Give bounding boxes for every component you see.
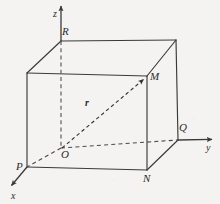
edge-vert-back-right — [176, 40, 178, 140]
box-dashed-edges — [27, 41, 178, 167]
axis-label-y: y — [206, 143, 210, 153]
edge-bottom-front — [27, 167, 147, 170]
edge-hidden-bottom-back — [61, 140, 178, 148]
box-solid-edges — [27, 40, 178, 170]
axis-y — [178, 139, 212, 140]
point-label-q: Q — [179, 122, 187, 133]
coordinate-box-diagram — [0, 0, 220, 204]
point-label-n: N — [143, 173, 150, 184]
figure-canvas: z y x O P Q R M N r — [0, 0, 220, 204]
point-label-m: M — [150, 71, 159, 82]
point-label-r: R — [62, 26, 69, 37]
point-label-p: P — [16, 161, 23, 172]
edge-top-back — [61, 40, 176, 41]
vector-label-r: r — [85, 98, 89, 108]
edge-top-left-diag — [27, 41, 61, 73]
axis-label-x: x — [11, 191, 15, 201]
edge-hidden-bottom-left — [27, 148, 61, 167]
point-label-o: O — [61, 149, 69, 160]
axis-label-z: z — [53, 9, 57, 19]
edge-top-front — [27, 73, 147, 76]
edge-bottom-right-diag — [147, 140, 178, 170]
axis-y-line — [178, 139, 212, 140]
position-vector-r — [62, 80, 144, 149]
